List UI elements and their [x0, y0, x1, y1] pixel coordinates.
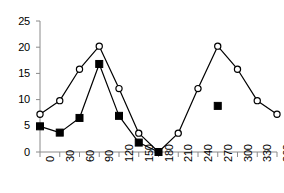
open-circle-series-point [215, 43, 221, 49]
open-circle-series-line [40, 46, 277, 152]
x-axis-tick-label: 120 [124, 144, 135, 162]
open-circle-series-point [76, 66, 82, 72]
x-axis-tick-label: 90 [104, 150, 115, 162]
x-axis-tick-label: 60 [85, 150, 96, 162]
filled-square-series-point [214, 102, 221, 109]
filled-square-series-point [37, 123, 44, 130]
filled-square-series-point [56, 129, 63, 136]
y-axis-tick-label: 5 [8, 120, 30, 131]
series-markers [37, 43, 281, 155]
x-axis-tick-label: 240 [203, 144, 214, 162]
x-axis-tick-label: 210 [183, 144, 194, 162]
filled-square-series-point [135, 139, 142, 146]
y-axis-ticks [36, 21, 40, 152]
x-axis-tick-label: 0 [45, 156, 56, 162]
y-axis-tick-label: 20 [8, 42, 30, 53]
filled-square-series-point [96, 60, 103, 67]
x-axis-tick-label: 360 [282, 144, 284, 162]
x-axis-tick-label: 150 [144, 144, 155, 162]
x-axis-tick-label: 300 [243, 144, 254, 162]
y-axis-tick-label: 0 [8, 147, 30, 158]
open-circle-series-point [96, 43, 102, 49]
y-axis-tick-label: 15 [8, 68, 30, 79]
plot-area [0, 0, 284, 193]
open-circle-series-point [175, 130, 181, 136]
open-circle-series-point [274, 111, 280, 117]
y-axis-tick-label: 10 [8, 94, 30, 105]
chart-container: 0510152025 03060901201501802102402703003… [0, 0, 284, 193]
open-circle-series-point [57, 98, 63, 104]
x-axis-tick-label: 180 [164, 144, 175, 162]
x-axis-tick-label: 270 [223, 144, 234, 162]
open-circle-series-point [136, 130, 142, 136]
x-axis-tick-label: 330 [262, 144, 273, 162]
open-circle-series-point [37, 111, 43, 117]
open-circle-series-point [254, 98, 260, 104]
open-circle-series-point [195, 86, 201, 92]
axis-lines [40, 21, 277, 152]
filled-square-series-point [155, 149, 162, 156]
y-axis-tick-label: 25 [8, 16, 30, 27]
series-lines [40, 46, 277, 152]
open-circle-series-point [116, 86, 122, 92]
x-axis-tick-label: 30 [65, 150, 76, 162]
open-circle-series-point [234, 66, 240, 72]
filled-square-series-point [76, 114, 83, 121]
filled-square-series-point [116, 112, 123, 119]
